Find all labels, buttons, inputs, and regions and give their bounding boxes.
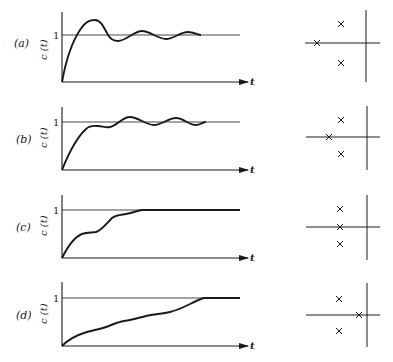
panel-label: (b) [16,133,32,146]
pole-x-icon [338,21,344,27]
pole-x-icon [336,328,342,334]
reference-level-label: 1 [53,117,59,128]
reference-level-label: 1 [53,30,59,41]
pole-x-icon [338,117,344,123]
time-axis-label: t [250,164,255,175]
y-axis-label: c (t) [38,303,49,324]
time-axis-label: t [250,252,255,263]
pole-x-icon [337,206,343,212]
time-axis-label: t [250,340,255,351]
panel-b: (b) c (t) 1 t [16,106,380,175]
s-plane [306,283,380,347]
step-response-figure: (a) c (t) 1 t (b) c (t) 1 t [0,0,393,362]
y-axis-label: c (t) [38,215,49,236]
pole-x-icon [338,151,344,157]
s-plane [306,195,380,260]
pole-x-icon [337,241,343,247]
panel-label: (a) [14,37,29,50]
s-plane [305,10,380,82]
s-plane [306,106,380,170]
pole-x-icon [338,60,344,66]
panel-a: (a) c (t) 1 t [14,10,380,87]
step-response-curve [62,20,201,82]
step-response-curve [62,298,240,346]
time-axis-label: t [250,76,255,87]
y-axis-label: c (t) [38,127,49,148]
reference-level-label: 1 [53,205,59,216]
panel-c: (c) c (t) 1 t [16,195,380,263]
reference-level-label: 1 [53,293,59,304]
y-axis-label: c (t) [38,39,49,60]
step-response-curve [62,117,206,170]
panel-label: (d) [16,309,32,322]
step-response-curve [62,210,240,258]
panel-label: (c) [16,221,31,234]
pole-x-icon [336,296,342,302]
panel-d: (d) c (t) 1 t [16,282,380,351]
